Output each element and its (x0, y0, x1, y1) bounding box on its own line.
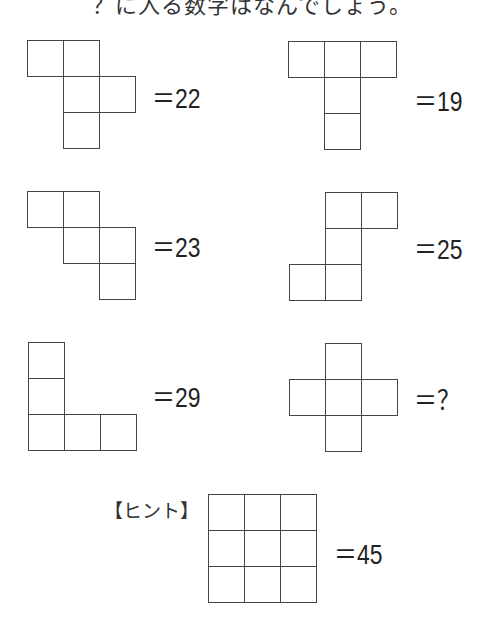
shape-5-cell (28, 342, 65, 379)
shape-2-value-label: ＝19 (414, 89, 462, 116)
shape-1-cell (63, 76, 100, 113)
shape-4-cell (325, 228, 362, 265)
hint-grid-cell (280, 494, 317, 531)
shape-5-cell (64, 414, 101, 451)
hint-grid-cell (244, 494, 281, 531)
hint-grid-cell (208, 494, 245, 531)
shape-3-value-label: ＝23 (152, 235, 200, 262)
shape-2-cell (324, 41, 361, 78)
hint-grid-cell (208, 566, 245, 603)
shape-6-value-label: ＝？ (414, 388, 460, 415)
hint-value-label: ＝45 (334, 542, 382, 569)
shape-1-cell (63, 112, 100, 149)
shape-6-cell (325, 343, 362, 380)
shape-4-cell (289, 264, 326, 301)
shape-5-cell (28, 414, 65, 451)
shape-5-cell (28, 378, 65, 415)
shape-4-cell (361, 192, 398, 229)
shape-3-cell (63, 191, 100, 228)
shape-1-cell (27, 40, 64, 77)
shape-3-cell (63, 227, 100, 264)
shape-5-value-label: ＝29 (152, 385, 200, 412)
hint-grid-cell (208, 530, 245, 567)
shape-2-cell (288, 41, 325, 78)
question-title: ？に入る数字はなんでしょう。 (0, 0, 503, 19)
shape-4-cell (325, 264, 362, 301)
shape-1-cell (99, 76, 136, 113)
shape-2-cell (324, 113, 361, 150)
shape-6-cell (325, 415, 362, 452)
shape-2-cell (324, 77, 361, 114)
shape-3-cell (99, 227, 136, 264)
shape-6-cell (325, 379, 362, 416)
shape-3-cell (99, 263, 136, 300)
hint-label: 【ヒント】 (104, 496, 199, 523)
shape-2-cell (360, 41, 397, 78)
shape-1-cell (63, 40, 100, 77)
hint-grid-cell (280, 530, 317, 567)
hint-grid-cell (280, 566, 317, 603)
shape-4-value-label: ＝25 (414, 237, 462, 264)
hint-grid-cell (244, 530, 281, 567)
hint-grid-cell (244, 566, 281, 603)
shape-3-cell (27, 191, 64, 228)
shape-1-value-label: ＝22 (152, 86, 200, 113)
shape-4-cell (325, 192, 362, 229)
shape-6-cell (289, 379, 326, 416)
shape-5-cell (100, 414, 137, 451)
shape-6-cell (361, 379, 398, 416)
